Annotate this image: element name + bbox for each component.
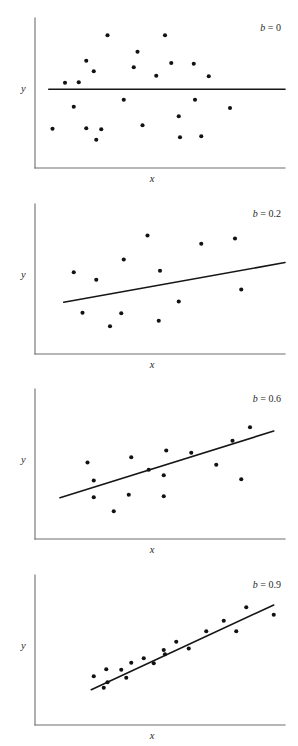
regression-line xyxy=(60,431,274,498)
data-point xyxy=(158,269,162,273)
slope-value: 0.9 xyxy=(269,579,282,590)
data-point xyxy=(244,605,248,609)
data-point xyxy=(124,676,128,680)
data-point xyxy=(140,123,144,127)
data-point xyxy=(163,652,167,656)
data-point xyxy=(233,236,237,240)
data-point xyxy=(199,242,203,246)
data-point xyxy=(222,619,226,623)
data-point xyxy=(177,299,181,303)
data-point xyxy=(92,69,96,73)
data-point xyxy=(147,468,151,472)
y-axis-label: y xyxy=(20,454,26,465)
data-point xyxy=(122,257,126,261)
scatterplot-figure: yxb=0yxb=0.2yxb=0.6yxb=0.9 xyxy=(0,0,298,746)
data-point xyxy=(84,59,88,63)
panel-canvas: yxb=0.2 xyxy=(0,186,298,372)
data-point xyxy=(102,686,106,690)
data-point xyxy=(272,613,276,617)
data-point xyxy=(174,640,178,644)
x-axis-label: x xyxy=(149,173,155,184)
data-point xyxy=(164,448,168,452)
slope-value: 0.6 xyxy=(269,393,282,404)
data-point xyxy=(152,661,156,665)
data-point xyxy=(234,629,238,633)
data-point xyxy=(162,648,166,652)
scatter-panel-2: yxb=0.6 xyxy=(0,371,298,557)
data-point xyxy=(72,105,76,109)
data-point xyxy=(129,661,133,665)
slope-equals: = xyxy=(260,579,266,590)
data-point xyxy=(239,287,243,291)
slope-annotation: b=0.2 xyxy=(253,208,281,219)
data-point xyxy=(157,319,161,323)
data-point xyxy=(92,478,96,482)
data-point xyxy=(145,233,149,237)
y-axis-label: y xyxy=(20,640,26,651)
data-point xyxy=(132,65,136,69)
scatter-panel-0: yxb=0 xyxy=(0,0,298,186)
slope-annotation: b=0.6 xyxy=(253,393,281,404)
data-point xyxy=(129,455,133,459)
slope-symbol: b xyxy=(260,22,265,33)
x-axis-label: x xyxy=(149,544,155,555)
data-point xyxy=(162,473,166,477)
scatter-panel-3: yxb=0.9 xyxy=(0,557,298,743)
data-point xyxy=(192,62,196,66)
x-axis-label: x xyxy=(149,730,155,741)
data-point xyxy=(119,668,123,672)
data-point xyxy=(204,629,208,633)
data-point xyxy=(105,680,109,684)
data-point xyxy=(112,509,116,513)
data-point xyxy=(84,126,88,130)
data-point xyxy=(122,98,126,102)
regression-line xyxy=(64,263,285,303)
data-point xyxy=(105,33,109,37)
panel-canvas: yxb=0.9 xyxy=(0,557,298,743)
data-point xyxy=(85,460,89,464)
data-point xyxy=(108,324,112,328)
data-point xyxy=(162,494,166,498)
x-axis-label: x xyxy=(149,359,155,370)
data-point xyxy=(50,127,54,131)
data-point xyxy=(193,98,197,102)
data-point xyxy=(178,135,182,139)
slope-symbol: b xyxy=(253,393,258,404)
slope-equals: = xyxy=(268,22,274,33)
data-point xyxy=(230,439,234,443)
data-point xyxy=(187,646,191,650)
y-axis-label: y xyxy=(20,269,26,280)
data-point xyxy=(142,656,146,660)
slope-annotation: b=0.9 xyxy=(253,579,281,590)
data-point xyxy=(169,61,173,65)
data-point xyxy=(104,667,108,671)
data-point xyxy=(77,80,81,84)
data-point xyxy=(163,33,167,37)
data-point xyxy=(214,463,218,467)
panel-canvas: yxb=0.6 xyxy=(0,371,298,557)
scatter-panel-1: yxb=0.2 xyxy=(0,186,298,372)
slope-equals: = xyxy=(260,393,266,404)
data-point xyxy=(239,477,243,481)
y-axis-label: y xyxy=(20,83,26,94)
data-point xyxy=(135,50,139,54)
data-point xyxy=(80,311,84,315)
slope-value: 0.2 xyxy=(269,208,282,219)
regression-line xyxy=(91,605,274,690)
slope-value: 0 xyxy=(276,22,281,33)
data-point xyxy=(99,127,103,131)
data-point xyxy=(72,270,76,274)
data-point xyxy=(127,493,131,497)
data-point xyxy=(207,74,211,78)
data-point xyxy=(199,134,203,138)
slope-annotation: b=0 xyxy=(260,22,281,33)
slope-symbol: b xyxy=(253,208,258,219)
slope-equals: = xyxy=(260,208,266,219)
data-point xyxy=(94,278,98,282)
data-point xyxy=(92,674,96,678)
data-point xyxy=(63,81,67,85)
data-point xyxy=(189,451,193,455)
data-point xyxy=(119,311,123,315)
data-point xyxy=(92,495,96,499)
panel-canvas: yxb=0 xyxy=(0,0,298,186)
